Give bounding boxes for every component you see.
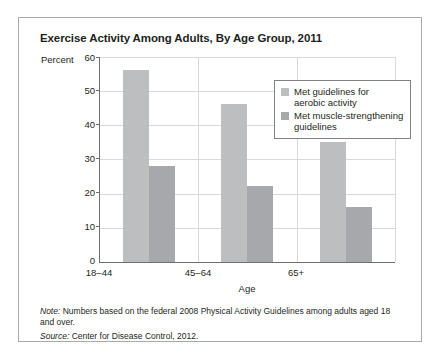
note-text: Numbers based on the federal 2008 Physic… bbox=[40, 306, 390, 327]
legend-item-muscle[interactable]: Met muscle-strengthening guidelines bbox=[281, 110, 403, 132]
legend-label-muscle: Met muscle-strengthening guidelines bbox=[294, 110, 403, 132]
source-label: Source: bbox=[40, 331, 69, 341]
bar-muscle-45-64[interactable] bbox=[247, 186, 273, 262]
x-tick-label-18-44: 18–44 bbox=[49, 267, 149, 278]
legend-label-aerobic: Met guidelines for aerobic activity bbox=[294, 86, 369, 108]
source-text: Center for Disease Control, 2012. bbox=[69, 331, 198, 341]
bar-muscle-18-44[interactable] bbox=[149, 166, 175, 262]
source-line: Source: Center for Disease Control, 2012… bbox=[40, 331, 404, 342]
legend-swatch-muscle-icon bbox=[281, 112, 289, 120]
x-tick-label-65-plus: 65+ bbox=[246, 267, 346, 278]
chart-legend: Met guidelines for aerobic activity Met … bbox=[274, 80, 411, 139]
y-tick-label-60: 60 bbox=[55, 52, 95, 63]
x-tick-label-45-64: 45–64 bbox=[148, 267, 248, 278]
legend-item-aerobic[interactable]: Met guidelines for aerobic activity bbox=[281, 86, 403, 108]
legend-swatch-aerobic-icon bbox=[281, 88, 289, 96]
note-label: Note: bbox=[40, 306, 60, 316]
chart-title: Exercise Activity Among Adults, By Age G… bbox=[40, 32, 322, 44]
note-line: Note: Numbers based on the federal 2008 … bbox=[40, 306, 404, 328]
footnotes: Note: Numbers based on the federal 2008 … bbox=[40, 306, 404, 345]
y-tick-label-0: 0 bbox=[55, 255, 95, 266]
bar-group-18-44 bbox=[100, 57, 198, 262]
x-axis-title: Age bbox=[99, 283, 395, 294]
y-tick-label-20: 20 bbox=[55, 187, 95, 198]
bar-aerobic-18-44[interactable] bbox=[123, 70, 149, 262]
bar-aerobic-65-plus[interactable] bbox=[320, 142, 346, 262]
y-tick-label-10: 10 bbox=[55, 221, 95, 232]
y-tick-label-40: 40 bbox=[55, 119, 95, 130]
bar-muscle-65-plus[interactable] bbox=[346, 207, 372, 262]
bar-aerobic-45-64[interactable] bbox=[221, 104, 247, 262]
chart-card: Exercise Activity Among Adults, By Age G… bbox=[18, 17, 422, 342]
y-tick-label-30: 30 bbox=[55, 153, 95, 164]
y-tick-label-50: 50 bbox=[55, 85, 95, 96]
